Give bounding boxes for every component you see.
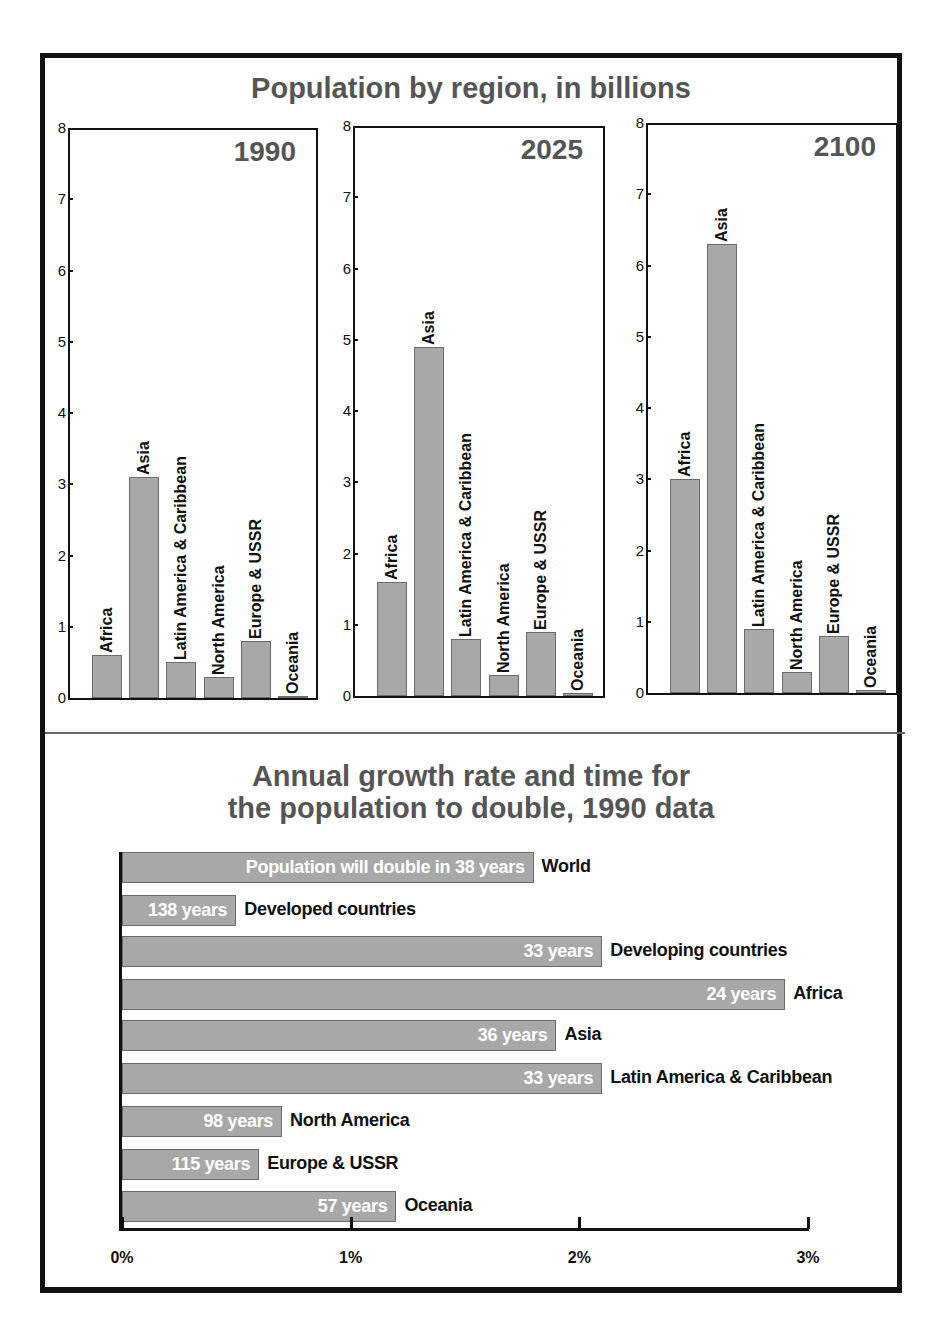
bar-world: Population will double in 38 years xyxy=(122,852,534,883)
region-label: Latin America & Caribbean xyxy=(610,1067,832,1088)
bar-category-label: North America xyxy=(495,563,513,673)
doubling-time-label: 33 years xyxy=(524,941,594,962)
y-tick-label: 0 xyxy=(337,688,351,703)
y-tick-mark xyxy=(646,621,651,623)
y-tick-mark xyxy=(646,550,651,552)
y-tick-mark xyxy=(68,555,73,557)
y-tick-mark xyxy=(353,196,358,198)
bar-asia xyxy=(707,244,737,693)
doubling-time-label: 57 years xyxy=(318,1196,388,1217)
bar-europe-ussr xyxy=(241,641,271,698)
y-tick-mark xyxy=(353,410,358,412)
bar-category-label: Asia xyxy=(135,441,153,475)
bar-developed-countries: 138 years xyxy=(122,895,236,926)
region-label: Europe & USSR xyxy=(267,1153,398,1174)
y-tick-label: 1 xyxy=(630,614,644,629)
region-label: Developing countries xyxy=(610,940,787,961)
y-tick-mark xyxy=(68,270,73,272)
bar-asia: 36 years xyxy=(122,1020,556,1051)
bar-category-label: Oceania xyxy=(862,626,880,688)
y-tick-label: 1 xyxy=(337,617,351,632)
y-tick-mark xyxy=(646,193,651,195)
y-tick-label: 6 xyxy=(337,261,351,276)
y-tick-label: 6 xyxy=(630,258,644,273)
bar-europe-ussr xyxy=(819,636,849,693)
bar-latin-america-caribbean xyxy=(744,629,774,693)
y-tick-label: 4 xyxy=(337,403,351,418)
top-chart-title: Population by region, in billions xyxy=(40,72,902,104)
region-label: Africa xyxy=(793,983,842,1004)
bar-category-label: North America xyxy=(788,560,806,670)
bar-category-label: Oceania xyxy=(284,632,302,694)
y-tick-mark xyxy=(68,626,73,628)
y-tick-label: 5 xyxy=(52,334,66,349)
bar-oceania: 57 years xyxy=(122,1191,396,1222)
growth-chart-y-axis xyxy=(119,852,122,1231)
bottom-chart-title-line2: the population to double, 1990 data xyxy=(40,792,902,824)
y-tick-label: 0 xyxy=(52,690,66,705)
x-tick-label: 3% xyxy=(788,1249,828,1267)
bar-africa: 24 years xyxy=(122,979,785,1010)
y-tick-label: 3 xyxy=(337,474,351,489)
y-tick-label: 7 xyxy=(337,189,351,204)
y-tick-label: 7 xyxy=(52,191,66,206)
bar-north-america: 98 years xyxy=(122,1106,282,1137)
bar-category-label: Europe & USSR xyxy=(532,510,550,630)
plot-area-2025: 2025AfricaAsiaLatin America & CaribbeanN… xyxy=(353,126,605,698)
y-tick-mark xyxy=(646,478,651,480)
plot-area-2100: 2100AfricaAsiaLatin America & CaribbeanN… xyxy=(646,123,898,695)
bar-category-label: Africa xyxy=(98,608,116,653)
y-tick-label: 0 xyxy=(630,685,644,700)
region-label: World xyxy=(542,856,591,877)
y-tick-mark xyxy=(68,341,73,343)
bar-category-label: Oceania xyxy=(569,629,587,691)
x-tick-label: 2% xyxy=(559,1249,599,1267)
doubling-time-label: 115 years xyxy=(172,1154,250,1175)
region-label: Oceania xyxy=(404,1195,472,1216)
section-divider xyxy=(45,732,905,734)
bar-category-label: Africa xyxy=(676,432,694,477)
bar-developing-countries: 33 years xyxy=(122,936,602,967)
y-tick-mark xyxy=(646,336,651,338)
x-tick-label: 1% xyxy=(331,1249,371,1267)
y-tick-label: 4 xyxy=(630,400,644,415)
y-tick-mark xyxy=(68,198,73,200)
bar-africa xyxy=(670,479,700,693)
y-tick-mark xyxy=(68,412,73,414)
bar-europe-ussr xyxy=(526,632,556,696)
bar-north-america xyxy=(782,672,812,693)
y-tick-label: 8 xyxy=(630,115,644,130)
y-tick-label: 7 xyxy=(630,186,644,201)
bar-oceania xyxy=(856,690,886,693)
y-tick-label: 6 xyxy=(52,263,66,278)
y-tick-label: 2 xyxy=(630,543,644,558)
bar-asia xyxy=(129,477,159,698)
bar-category-label: North America xyxy=(210,565,228,675)
bar-oceania xyxy=(278,696,308,698)
bar-category-label: Latin America & Caribbean xyxy=(172,456,190,660)
y-tick-mark xyxy=(353,624,358,626)
y-tick-mark xyxy=(353,553,358,555)
bar-category-label: Latin America & Caribbean xyxy=(457,433,475,637)
doubling-time-label: 33 years xyxy=(524,1068,594,1089)
bar-north-america xyxy=(489,675,519,696)
y-tick-mark xyxy=(353,268,358,270)
bar-oceania xyxy=(563,693,593,696)
bottom-chart-title-line1: Annual growth rate and time for xyxy=(40,760,902,792)
bar-europe-ussr: 115 years xyxy=(122,1149,259,1180)
y-tick-mark xyxy=(646,265,651,267)
y-tick-label: 2 xyxy=(337,546,351,561)
bar-category-label: Asia xyxy=(713,208,731,242)
y-tick-label: 2 xyxy=(52,548,66,563)
bar-category-label: Europe & USSR xyxy=(825,514,843,634)
bar-category-label: Europe & USSR xyxy=(247,519,265,639)
region-label: Asia xyxy=(564,1024,601,1045)
y-tick-label: 5 xyxy=(337,332,351,347)
doubling-time-label: 138 years xyxy=(148,900,227,921)
y-tick-label: 8 xyxy=(52,120,66,135)
bar-category-label: Asia xyxy=(420,311,438,345)
panel-year-label: 1990 xyxy=(234,136,296,168)
region-label: North America xyxy=(290,1110,409,1131)
doubling-time-label: 36 years xyxy=(478,1025,548,1046)
doubling-time-label: Population will double in 38 years xyxy=(246,857,525,878)
